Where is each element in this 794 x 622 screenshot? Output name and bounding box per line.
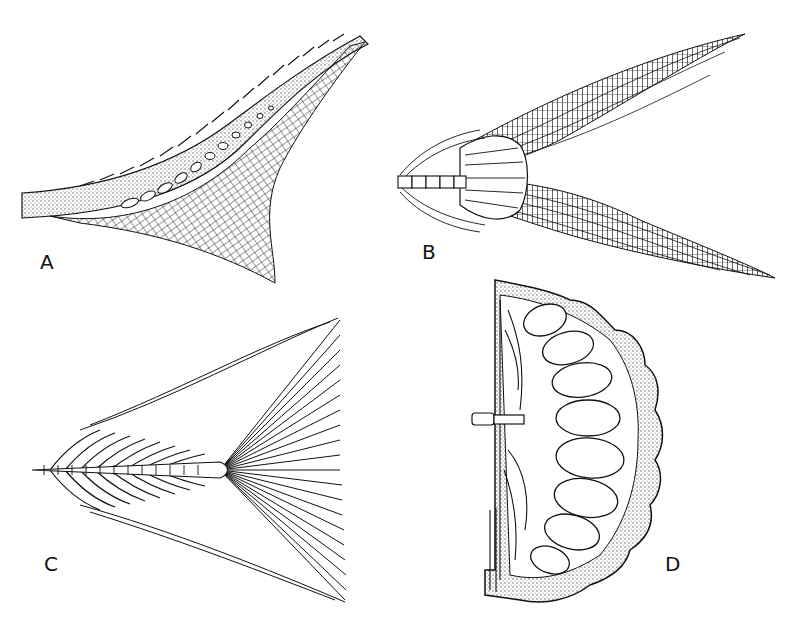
heterocercal-tail-drawing: [20, 28, 370, 288]
panel-label-c: C: [44, 554, 58, 574]
diphycercal-tail-drawing: [20, 290, 380, 615]
fin-rays: [80, 318, 346, 602]
panel-b: B: [380, 30, 790, 290]
panel-label-a: A: [40, 252, 54, 272]
panel-a: A: [20, 28, 370, 288]
panel-d: D: [460, 270, 700, 615]
panel-label-b: B: [422, 242, 436, 262]
fish-tail-figure: A: [0, 0, 794, 622]
cross-section-drawing: [460, 270, 700, 615]
panel-c: C: [20, 290, 380, 615]
forked-tail-drawing: [380, 30, 790, 290]
panel-label-d: D: [665, 554, 680, 574]
